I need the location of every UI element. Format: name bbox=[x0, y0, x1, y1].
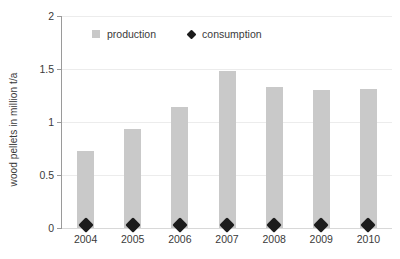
x-tick-label-2005: 2005 bbox=[109, 233, 157, 245]
bar-2009 bbox=[313, 90, 330, 228]
legend-label: consumption bbox=[202, 28, 262, 40]
x-tick-label-2007: 2007 bbox=[203, 233, 251, 245]
x-tick-label-2010: 2010 bbox=[344, 233, 392, 245]
legend-item-production[interactable]: production bbox=[92, 28, 156, 40]
gridline bbox=[62, 69, 392, 70]
plot-area bbox=[62, 16, 392, 228]
bar-2008 bbox=[266, 87, 283, 228]
diamond-icon bbox=[187, 29, 197, 39]
y-tick-mark bbox=[57, 122, 62, 123]
bar-2005 bbox=[124, 129, 141, 228]
legend-item-consumption[interactable]: consumption bbox=[188, 28, 262, 40]
y-tick-label: 0.5 bbox=[14, 169, 54, 181]
y-tick-mark bbox=[57, 175, 62, 176]
y-tick-mark bbox=[57, 228, 62, 229]
x-tick-label-2008: 2008 bbox=[250, 233, 298, 245]
y-axis-title: wood pellets in million t/a bbox=[0, 0, 26, 259]
chart-legend: productionconsumption bbox=[92, 28, 262, 40]
x-tick-label-2006: 2006 bbox=[156, 233, 204, 245]
x-tick-label-2004: 2004 bbox=[62, 233, 110, 245]
bar-2007 bbox=[219, 71, 236, 228]
legend-label: production bbox=[107, 28, 156, 40]
square-icon bbox=[92, 30, 100, 38]
y-tick-label: 1.5 bbox=[14, 63, 54, 75]
y-tick-label: 1 bbox=[14, 116, 54, 128]
gridline bbox=[62, 16, 392, 17]
wood-pellets-bar-chart: wood pellets in million t/a 00.511.52 20… bbox=[0, 0, 400, 259]
bar-2010 bbox=[360, 89, 377, 228]
y-tick-mark bbox=[57, 16, 62, 17]
y-tick-label: 0 bbox=[14, 222, 54, 234]
bar-2006 bbox=[171, 107, 188, 228]
x-tick-label-2009: 2009 bbox=[297, 233, 345, 245]
y-tick-label: 2 bbox=[14, 10, 54, 22]
y-tick-mark bbox=[57, 69, 62, 70]
